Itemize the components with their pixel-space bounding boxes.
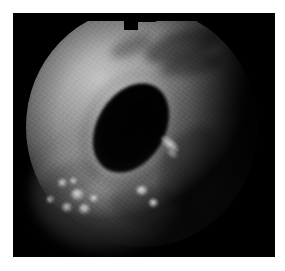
field-of-view-top-notch-step — [138, 13, 156, 22]
endoscope-field-of-view — [13, 13, 275, 257]
vignette-outer — [26, 13, 258, 247]
image-canvas — [13, 13, 275, 257]
endoscopy-image-viewer — [0, 0, 285, 271]
field-of-view-top-notch — [124, 13, 138, 30]
